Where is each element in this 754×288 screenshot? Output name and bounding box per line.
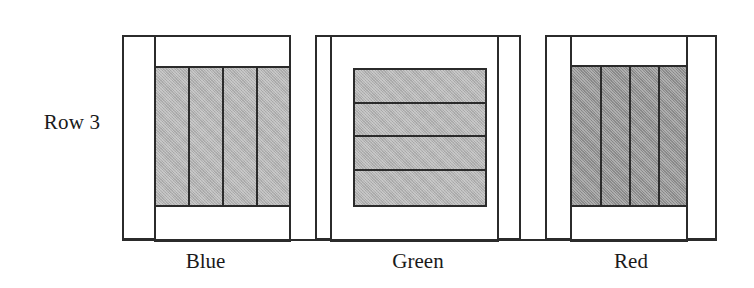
cell-divider-red-2 [629, 67, 631, 205]
row-label: Row 3 [26, 110, 118, 135]
category-label-red: Red [545, 249, 717, 274]
cell-divider-red-3 [658, 67, 660, 205]
fill-block-red [570, 65, 688, 207]
cell-divider-green-2 [355, 135, 485, 137]
panel-red [545, 35, 717, 240]
category-label-green: Green [315, 249, 521, 274]
fill-block-blue [154, 66, 291, 207]
panel-green [315, 35, 521, 240]
figure-canvas: Row 3 Blue Green Red [0, 0, 754, 288]
cell-divider-blue-2 [222, 68, 224, 205]
cell-divider-green-3 [355, 169, 485, 171]
category-label-blue: Blue [122, 249, 289, 274]
cell-divider-red-1 [600, 67, 602, 205]
cell-divider-green-1 [355, 102, 485, 104]
cell-divider-blue-3 [256, 68, 258, 205]
cell-divider-blue-1 [188, 68, 190, 205]
panel-blue [122, 35, 289, 240]
fill-block-green [353, 68, 487, 207]
axis-baseline [122, 239, 717, 241]
